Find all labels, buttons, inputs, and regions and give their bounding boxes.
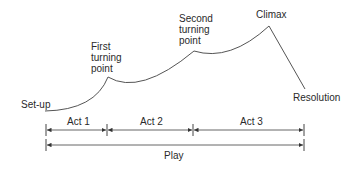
label-resolution: Resolution [293,92,340,103]
label-climax: Climax [256,9,287,20]
label-act-3: Act 3 [240,116,263,127]
label-act-2: Act 2 [140,116,163,127]
label-act-1: Act 1 [67,116,90,127]
act-ticks [46,124,304,151]
tension-curve [45,26,305,111]
label-second-turning-point: Second turning point [179,13,213,46]
label-first-turning-point: First turning point [91,41,122,74]
label-play: Play [164,150,183,161]
label-setup: Set-up [21,99,50,110]
dramatic-structure-diagram [0,0,355,169]
